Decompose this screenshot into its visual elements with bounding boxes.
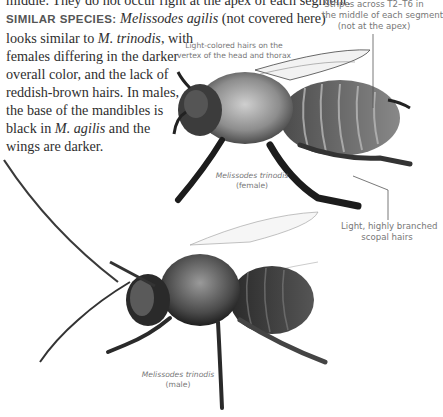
annotation-line: the middle of each segment (322, 10, 426, 21)
vertex-annotation: Light-colored hairs on the vertex of the… (172, 41, 296, 60)
text-line-4: overall color, and the lack of (6, 65, 169, 83)
caption-species: Melissodes trinodis (142, 370, 214, 379)
scopal-annotation: Light, highly branched scopal hairs (341, 221, 433, 243)
text-line-8: wings are darker. (6, 137, 103, 155)
caption-sex: (female) (206, 181, 298, 191)
female-caption: Melissodes trinodis (female) (206, 171, 298, 190)
species-name: M. trinodis (98, 30, 161, 46)
similar-species-line: SIMILAR SPECIES: Melissodes agilis (not … (6, 9, 326, 28)
species-name: M. agilis (55, 120, 105, 136)
similar-species-name: Melissodes agilis (120, 10, 218, 26)
annotation-line: scopal hairs (341, 232, 433, 243)
similar-species-note: (not covered here) (222, 10, 326, 26)
stripes-annotation: Stripes across T2–T6 in the middle of ea… (322, 0, 426, 32)
text-segment: looks similar to (6, 30, 98, 46)
annotation-line: Light, highly branched (341, 221, 433, 232)
similar-species-heading: SIMILAR SPECIES: (6, 13, 117, 25)
annotation-line: (not at the apex) (322, 21, 426, 32)
caption-species: Melissodes trinodis (216, 171, 288, 180)
text-line-7: black in M. agilis and the (6, 119, 150, 137)
scopal-leader-line (353, 176, 388, 220)
text-line-6: the base of the mandibles is (6, 101, 163, 119)
text-line-3: females differing in the darker (6, 47, 178, 65)
text-line-5: reddish-brown hairs. In males, (6, 83, 179, 101)
text-line-2: looks similar to M. trinodis, with (6, 29, 193, 47)
annotation-line: vertex of the head and thorax (172, 51, 296, 61)
caption-sex: (male) (132, 380, 224, 390)
annotation-line: Stripes across T2–T6 in (322, 0, 426, 10)
text-segment: black in (6, 120, 55, 136)
text-segment: and the (105, 120, 150, 136)
text-line-0: middle. They do not occur right at the a… (6, 0, 350, 9)
male-caption: Melissodes trinodis (male) (132, 370, 224, 389)
annotation-line: Light-colored hairs on the (172, 41, 296, 51)
